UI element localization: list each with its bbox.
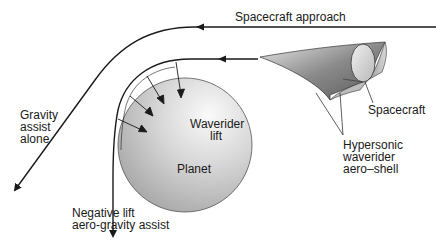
label-spacecraft: Spacecraft [368,104,425,116]
label-planet: Planet [177,163,211,175]
gravity-path-direction-arrow [196,24,204,31]
planet-body [118,78,252,212]
label-waverider-lift-2: lift [210,130,222,142]
label-aeroshell-3: aero–shell [343,163,398,175]
aeroshell-leader-2 [340,93,343,135]
diagram-canvas: Spacecraft approach Gravity assist alone… [0,0,436,243]
label-spacecraft-approach: Spacecraft approach [235,11,346,23]
spacecraft-leader [365,82,373,103]
spacecraft-disc [351,44,375,82]
aero-path-direction-arrow [218,56,226,63]
label-gravity-assist-3: alone [20,133,49,145]
label-negative-lift-2: aero-gravity assist [72,219,169,231]
waverider-aeroshell [260,42,386,100]
